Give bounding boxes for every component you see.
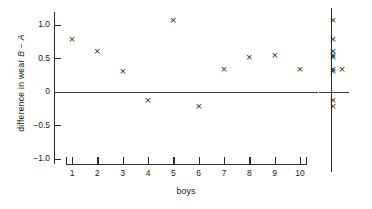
y-axis-tick-label: −0.5 (16, 120, 50, 130)
x-axis-tick-label: 5 (163, 168, 183, 178)
x-axis-tick (224, 157, 225, 165)
y-axis-tick-label: 1.0 (16, 19, 50, 29)
zero-reference-line (54, 92, 318, 93)
y-axis-tick-label: 0 (16, 86, 50, 96)
y-axis-line (54, 12, 55, 164)
y-axis-label: difference in wear B − A (16, 8, 26, 158)
summary-column-marker: × (329, 53, 338, 62)
y-axis-label-symbol-a: A (16, 34, 26, 40)
y-axis-tick (54, 159, 61, 160)
x-axis-tick (123, 157, 124, 165)
x-axis-tick-label: 7 (214, 168, 234, 178)
data-point-marker: × (270, 51, 279, 60)
summary-column-marker: × (329, 67, 338, 76)
data-point-marker: × (220, 65, 229, 74)
data-point-marker: × (245, 53, 254, 62)
x-axis-line (66, 164, 306, 165)
x-axis-tick (300, 157, 301, 165)
x-axis-tick-label: 1 (62, 168, 82, 178)
x-axis-tick-label: 10 (290, 168, 310, 178)
x-axis-tick-label: 8 (239, 168, 259, 178)
summary-column-marker: × (329, 35, 338, 44)
scatter-plot-figure: difference in wear B − A 1.00.50−0.5−1.0… (0, 0, 372, 209)
data-point-marker: × (194, 102, 203, 111)
x-axis-tick (72, 157, 73, 165)
y-axis-tick (54, 125, 61, 126)
x-axis-end-cap (66, 157, 67, 165)
summary-column-zero-line (319, 92, 349, 93)
x-axis-tick (275, 157, 276, 165)
data-point-marker: × (93, 47, 102, 56)
y-axis-tick (54, 58, 61, 59)
x-axis-tick (97, 157, 98, 165)
x-axis-tick (249, 157, 250, 165)
x-axis-tick (148, 157, 149, 165)
data-point-marker: × (68, 35, 77, 44)
data-point-marker: × (296, 65, 305, 74)
data-point-marker: × (118, 67, 127, 76)
x-axis-end-cap (306, 157, 307, 165)
y-axis-tick (54, 25, 61, 26)
y-axis-tick-label: 0.5 (16, 53, 50, 63)
x-axis-tick (173, 157, 174, 165)
x-axis-tick (199, 157, 200, 165)
y-axis-tick-label: −1.0 (16, 153, 50, 163)
x-axis-label: boys (0, 186, 372, 196)
summary-column-marker: × (329, 16, 338, 25)
x-axis-tick-label: 4 (138, 168, 158, 178)
data-point-marker: × (144, 96, 153, 105)
y-axis-label-minus: − (16, 40, 26, 51)
x-axis-tick-label: 6 (189, 168, 209, 178)
x-axis-tick-label: 9 (265, 168, 285, 178)
x-axis-tick-label: 2 (87, 168, 107, 178)
summary-column-marker: × (329, 102, 338, 111)
x-axis-tick-label: 3 (113, 168, 133, 178)
summary-column-marker: × (338, 65, 347, 74)
summary-column-axis (331, 8, 332, 172)
data-point-marker: × (169, 16, 178, 25)
